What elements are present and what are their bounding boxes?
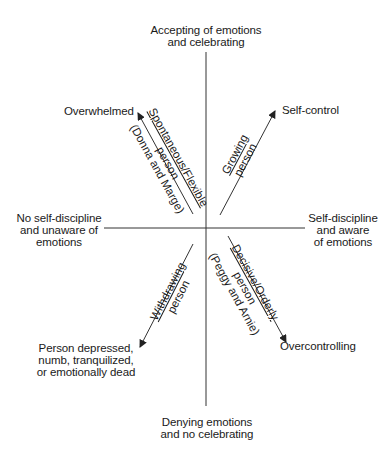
axis-label-left: No self-discipline and unaware of emotio… xyxy=(14,212,104,248)
axis-label-top: Accepting of emotions and celebrating xyxy=(141,24,271,48)
axis-label-right: Self-discipline and aware of emotions xyxy=(301,212,385,248)
emotion-quadrant-diagram: Accepting of emotions and celebrating De… xyxy=(0,0,389,454)
endpoint-overcontrolling: Overcontrolling xyxy=(280,340,356,352)
endpoint-depressed: Person depressed, numb, tranquilized, or… xyxy=(36,342,136,378)
endpoint-self-control: Self-control xyxy=(282,104,339,116)
axis-label-bottom: Denying emotions and no celebrating xyxy=(151,416,263,440)
